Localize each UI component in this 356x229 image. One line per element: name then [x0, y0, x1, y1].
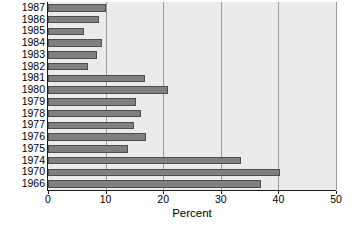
y-tick-label-1979: 1979	[1, 96, 45, 107]
x-axis-line	[47, 190, 336, 191]
y-tick-label-1986: 1986	[1, 14, 45, 25]
bar-1984	[48, 39, 102, 47]
bar-1986	[48, 16, 99, 24]
bar-1982	[48, 63, 88, 71]
y-tick-label-1975: 1975	[1, 143, 45, 154]
y-axis-line	[47, 2, 48, 191]
gridline-50	[336, 2, 337, 190]
y-tick-label-1978: 1978	[1, 108, 45, 119]
y-tick-label-1983: 1983	[1, 49, 45, 60]
y-tick-label-1981: 1981	[1, 72, 45, 83]
bar-1983	[48, 51, 97, 59]
y-tick-label-1980: 1980	[1, 84, 45, 95]
y-tick-label-1987: 1987	[1, 2, 45, 13]
bar-1978	[48, 110, 141, 118]
x-axis-title: Percent	[48, 207, 336, 219]
bar-1981	[48, 75, 145, 83]
y-tick-label-1984: 1984	[1, 37, 45, 48]
bar-1970	[48, 169, 280, 177]
bar-1979	[48, 98, 136, 106]
bar-1985	[48, 28, 84, 36]
bar-chart: 1987198619851984198319821981198019791978…	[0, 0, 356, 229]
bar-1975	[48, 145, 128, 153]
x-tick-label-10: 10	[86, 193, 126, 205]
bar-1974	[48, 157, 241, 165]
gridline-40	[278, 2, 279, 190]
y-tick-label-1985: 1985	[1, 25, 45, 36]
bar-1987	[48, 4, 106, 12]
y-tick-label-1966: 1966	[1, 178, 45, 189]
y-tick-label-1977: 1977	[1, 119, 45, 130]
y-tick-label-1974: 1974	[1, 155, 45, 166]
y-tick-label-1982: 1982	[1, 61, 45, 72]
x-tick-label-30: 30	[201, 193, 241, 205]
bar-1966	[48, 180, 261, 188]
x-tick-label-0: 0	[28, 193, 68, 205]
y-tick-label-1976: 1976	[1, 131, 45, 142]
x-tick-label-20: 20	[143, 193, 183, 205]
x-tick-label-50: 50	[316, 193, 356, 205]
y-tick-label-1970: 1970	[1, 166, 45, 177]
bar-1980	[48, 86, 168, 94]
bar-1976	[48, 133, 146, 141]
bar-1977	[48, 122, 134, 130]
y-axis-tick-labels: 1987198619851984198319821981198019791978…	[0, 2, 45, 190]
x-tick-label-40: 40	[258, 193, 298, 205]
